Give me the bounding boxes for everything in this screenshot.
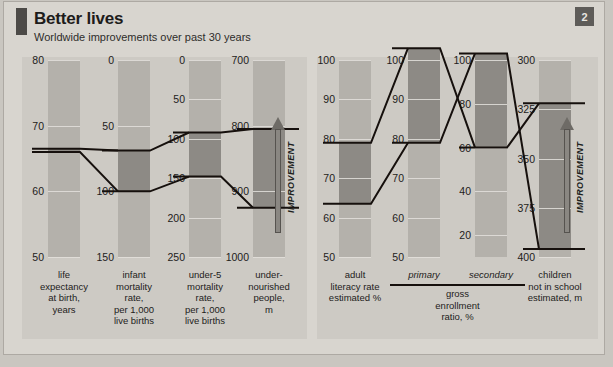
slope-segment-life-expectancy: [32, 152, 118, 191]
slope-segment-gross-enrollment-primary: [392, 53, 475, 142]
arrow-shaft: [564, 129, 570, 233]
title-accent-bar: [16, 8, 27, 35]
metric-label-life-expectancy: lifeexpectancyat birth,years: [26, 269, 102, 315]
page-number-badge: 2: [575, 7, 594, 26]
page-title: Better lives: [34, 9, 123, 29]
metric-label-undernourished: under-nourishedpeople,m: [231, 269, 307, 315]
slope-segment-after-gross-enrollment-secondary: [459, 103, 539, 147]
metric-labels-left: lifeexpectancyat birth,yearsinfantmortal…: [22, 263, 307, 339]
improvement-label: IMPROVEMENT: [572, 117, 588, 237]
slope-segment-after-gross-enrollment-primary: [392, 48, 475, 147]
scanned-page: Better lives Worldwide improvements over…: [0, 0, 613, 367]
metric-labels-right: adultliteracy rateestimated %primaryseco…: [317, 263, 598, 339]
metric-label-adult-literacy: adultliteracy rateestimated %: [315, 269, 395, 304]
arrow-shaft: [275, 129, 281, 233]
plot-area-right: 1009080706050100908070605010080604020300…: [317, 57, 598, 257]
slope-segment-adult-literacy: [323, 143, 408, 204]
metric-label-infant-mortality: infantmortalityrate,per 1,000live births: [96, 269, 172, 327]
slope-segment-under5-mortality: [173, 177, 253, 208]
gridline: [408, 257, 440, 258]
gridline: [539, 257, 571, 258]
group-label-gross-enrollment: grossenrollmentratio, %: [418, 288, 498, 323]
infographic-sheet: Better lives Worldwide improvements over…: [4, 2, 604, 354]
slope-segment-after-adult-literacy: [323, 48, 408, 143]
metric-label-children-not-in-school: childrennot in schoolestimated, m: [513, 269, 597, 304]
page-subtitle: Worldwide improvements over past 30 year…: [34, 31, 251, 43]
slope-segment-after-infant-mortality: [102, 132, 189, 150]
slope-segment-gross-enrollment-secondary: [459, 53, 539, 249]
improvement-arrow-right: IMPROVEMENT: [557, 117, 597, 237]
plot-area-left: 8070605005010015005010015020025070080090…: [22, 57, 307, 257]
gridline: [253, 257, 285, 258]
metric-label-gross-enrollment-primary: primary: [388, 269, 460, 281]
chart-panel-left: 8070605005010015005010015020025070080090…: [22, 57, 307, 339]
slope-lines: [317, 57, 598, 257]
group-bracket: [390, 284, 525, 286]
slope-lines: [22, 57, 307, 257]
chart-panel-right: 1009080706050100908070605010080604020300…: [317, 57, 598, 339]
